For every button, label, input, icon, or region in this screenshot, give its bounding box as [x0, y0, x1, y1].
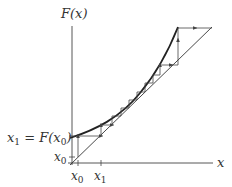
- identity-line: [70, 27, 212, 165]
- label-x1-equals-F-x0: x1 = F(x0): [7, 131, 71, 147]
- diagram-graphics: [0, 0, 232, 187]
- tick-label-x0: x0: [71, 170, 84, 185]
- tick-label-x1: x1: [94, 170, 107, 185]
- cobweb-diagram: F(x) x x1 = F(x0) x0 x0 x1: [0, 0, 232, 187]
- y-axis-label: F(x): [61, 7, 88, 20]
- function-curve: [70, 27, 178, 138]
- label-y-x0: x0: [54, 151, 67, 166]
- x-axis-label: x: [217, 156, 224, 169]
